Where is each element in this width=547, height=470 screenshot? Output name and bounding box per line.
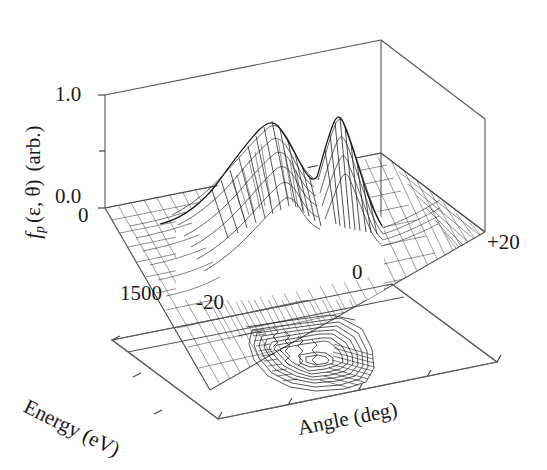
z-axis-label: fp(ε, θ)(arb.): [23, 72, 47, 292]
energy-tick-0: 0: [78, 205, 89, 226]
plot-canvas: [0, 0, 547, 470]
z-axis-label-units: (arb.): [21, 125, 45, 171]
angle-tick-0: 0: [352, 262, 363, 283]
floor-outline: [112, 284, 497, 419]
energy-tick-1500: 1500: [120, 283, 162, 304]
angle-tick-minus20: -20: [196, 292, 224, 313]
floor-outline-overlay: [112, 284, 497, 419]
angle-tick-plus20: +20: [487, 232, 520, 253]
z-axis-label-subscript: p: [32, 226, 47, 233]
z-tick-1.0: 1.0: [55, 84, 81, 105]
z-axis-ticks: [98, 95, 105, 208]
energy-axis-ticks: [112, 336, 184, 451]
z-axis-label-f: f: [21, 233, 45, 239]
z-axis-label-args: (ε, θ): [21, 180, 45, 223]
surface-right-wedge: [381, 153, 485, 327]
figure-3d-surface-plot: 1.0 0.0 0 1500 -20 0 +20 fp(ε, θ)(arb.) …: [0, 0, 547, 470]
surface-mesh: [105, 117, 485, 390]
